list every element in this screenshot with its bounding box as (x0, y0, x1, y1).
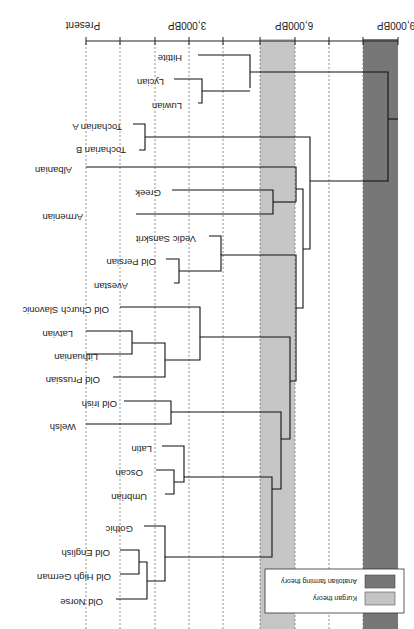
leaf-lycian: Lycian (137, 77, 164, 88)
leaf-armenian: Armenian (42, 212, 83, 223)
leaf-tocharian-b: Tocharian B (76, 145, 126, 156)
leaf-old-high-german: Old High German (37, 572, 111, 583)
time-axis: Present 3,000BP 6,000BP 9,000BP (66, 20, 414, 45)
tick-9000bp: 9,000BP (376, 20, 414, 31)
leaf-old-irish: Old Irish (82, 399, 117, 410)
leaf-old-norse: Old Norse (60, 597, 103, 608)
kurgan-band (260, 39, 295, 629)
leaf-welsh: Welsh (50, 422, 76, 433)
legend-swatch-anatolian (365, 575, 395, 588)
leaf-old-prussian: Old Prussian (46, 375, 100, 386)
dendrogram-chart: Present 3,000BP 6,000BP 9,000BP Hittite … (0, 0, 414, 629)
leaf-oscan: Oscan (116, 468, 143, 479)
tick-3000bp: 3,000BP (167, 20, 206, 31)
leaf-avestan: Avestan (94, 281, 128, 292)
legend-swatch-kurgan (365, 592, 395, 605)
leaf-latin: Latin (131, 444, 152, 455)
tick-6000bp: 6,000BP (274, 20, 313, 31)
anatolian-band (363, 39, 398, 629)
tick-present: Present (66, 20, 101, 31)
flipped-chart-group: Present 3,000BP 6,000BP 9,000BP Hittite … (22, 20, 414, 629)
leaf-latvian: Latvian (42, 329, 73, 340)
leaf-albanian: Albanian (35, 165, 72, 176)
grid-lines (86, 41, 363, 629)
leaf-old-church-slavonic: Old Church Slavonic (22, 305, 109, 316)
dendrogram-branches (86, 55, 398, 599)
leaf-hittite: Hittite (158, 53, 182, 64)
leaf-luwian: Luwian (152, 101, 182, 112)
leaf-greek: Greek (135, 188, 161, 199)
leaf-tocharian-a: Tocharian A (72, 122, 122, 133)
legend: Kurgan theory Anatolian farming theory (265, 569, 404, 613)
leaf-old-persian: Old Persian (106, 257, 156, 268)
legend-label-kurgan: Kurgan theory (313, 594, 357, 602)
leaf-umbrian: Umbrian (111, 492, 147, 503)
legend-label-anatolian: Anatolian farming theory (281, 577, 357, 585)
leaf-gothic: Gothic (105, 524, 133, 535)
leaf-vedic-sanskrit: Vedic Sanskrit (135, 234, 196, 245)
leaf-old-english: Old English (61, 548, 110, 559)
